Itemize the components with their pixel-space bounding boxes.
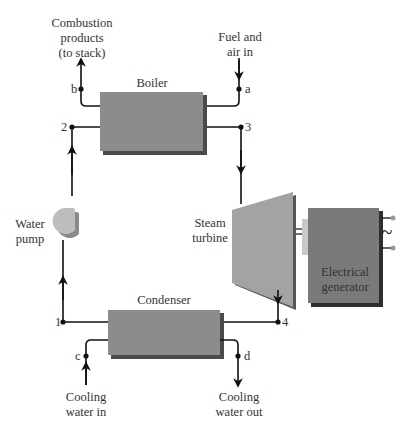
point-a <box>236 86 241 91</box>
point-d <box>235 353 240 358</box>
pump-to-boiler-line <box>72 127 100 196</box>
point-1-label: 1 <box>55 315 61 329</box>
steam-turbine-label: Steam turbine <box>188 216 232 246</box>
terminal-bottom <box>391 246 396 251</box>
water-pump-label: Water pump <box>10 217 50 247</box>
point-b-label: b <box>71 82 77 96</box>
point-3 <box>238 124 243 129</box>
cooling-water-out-label: Cooling water out <box>204 390 274 420</box>
condenser <box>108 310 224 359</box>
point-4 <box>275 319 280 324</box>
terminal-top <box>391 216 396 221</box>
point-4-label: 4 <box>282 315 289 329</box>
point-2-label: 2 <box>61 120 67 134</box>
steam-turbine <box>232 192 296 310</box>
fuel-air-label: Fuel and air in <box>210 30 270 60</box>
point-c-label: c <box>75 349 81 363</box>
boiler <box>100 92 207 155</box>
cooling-in-line <box>86 340 108 385</box>
water-pump <box>53 208 79 238</box>
condenser-label: Condenser <box>137 293 191 307</box>
combustion-products-label: Combustion products (to stack) <box>46 16 118 61</box>
combustion-line <box>81 62 100 106</box>
point-a-label: a <box>245 82 251 96</box>
point-2 <box>69 124 74 129</box>
point-d-label: d <box>244 349 251 363</box>
condenser-to-pump-line <box>63 240 108 322</box>
point-b <box>78 86 83 91</box>
fuel-line <box>207 58 239 106</box>
boiler-to-turbine-line <box>207 127 241 204</box>
boiler-label: Boiler <box>136 76 168 90</box>
ac-symbol: ~ <box>382 221 393 243</box>
power-plant-diagram: Boiler b a 2 3 ~ <box>0 0 418 435</box>
point-3-label: 3 <box>245 120 251 134</box>
cooling-water-in-label: Cooling water in <box>56 390 116 420</box>
electrical-generator-label: Electrical generator <box>310 265 380 295</box>
point-c <box>83 353 88 358</box>
